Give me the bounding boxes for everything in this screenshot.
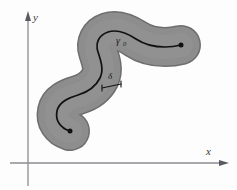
curve-start-endpoint-dot — [68, 129, 73, 134]
y-axis-label: y — [32, 11, 38, 23]
y-axis-arrowhead — [25, 11, 31, 21]
x-axis-label: x — [205, 145, 211, 157]
figure-container: γ 0 δ y x — [0, 0, 237, 190]
curve-end-endpoint-dot — [179, 43, 184, 48]
math-figure: γ 0 δ y x — [0, 0, 237, 190]
x-axis-arrowhead — [219, 160, 229, 166]
